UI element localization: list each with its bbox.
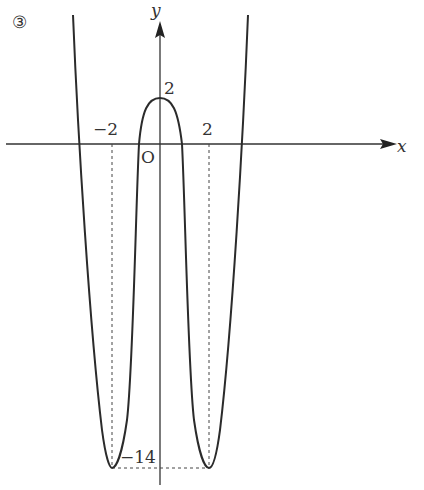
x-axis-label: x [397,136,407,156]
y-min-label: −14 [120,447,156,467]
y-max-label: 2 [164,78,175,98]
tick-label-pos2: 2 [202,119,213,139]
origin-label: O [141,147,155,167]
graph: ③ x y O −2 2 2 −14 [0,0,424,490]
figure-label: ③ [12,12,27,32]
y-axis-label: y [150,0,161,20]
tick-label-neg2: −2 [93,119,118,139]
